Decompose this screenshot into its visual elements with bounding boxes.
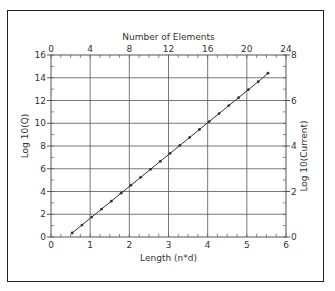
data-point [90, 216, 93, 219]
x-tick-label: 1 [87, 240, 93, 250]
y-tick-label: 12 [35, 96, 46, 106]
y2-tick-label: 2 [291, 187, 297, 197]
data-point [130, 184, 133, 187]
top-axis-title: Number of Elements [122, 32, 215, 42]
data-point [71, 232, 74, 235]
data-point [227, 104, 230, 107]
x-tick-label: 4 [205, 240, 211, 250]
data-point [81, 224, 84, 227]
data-point [100, 208, 103, 211]
data-point [169, 152, 172, 155]
y-tick-label: 2 [40, 209, 46, 219]
y-tick-label: 6 [40, 164, 46, 174]
y-tick-label: 14 [35, 73, 47, 83]
x2-tick-label: 12 [163, 44, 174, 54]
data-series [71, 72, 270, 235]
chart: 012345604812162024024681012141602468 Num… [0, 0, 335, 291]
y-tick-label: 0 [40, 232, 46, 242]
x-tick-label: 6 [283, 240, 289, 250]
data-point [110, 200, 113, 203]
y-tick-label: 4 [40, 187, 46, 197]
y-tick-label: 8 [40, 141, 46, 151]
data-point [188, 136, 191, 139]
left-axis-title: Log 10(Q) [20, 114, 30, 159]
y2-tick-label: 0 [291, 232, 297, 242]
x2-tick-label: 16 [202, 44, 214, 54]
data-point [139, 176, 142, 179]
x-tick-label: 0 [48, 240, 54, 250]
grid [51, 55, 286, 237]
y2-tick-label: 4 [291, 141, 297, 151]
y2-tick-label: 8 [291, 50, 297, 60]
x2-tick-label: 4 [87, 44, 93, 54]
data-point [218, 112, 221, 115]
data-point [178, 144, 181, 147]
bottom-axis-title: Length (n*d) [140, 253, 197, 263]
data-point [267, 72, 270, 75]
data-point [149, 168, 152, 171]
x-tick-label: 3 [166, 240, 172, 250]
data-point [257, 80, 260, 83]
data-point [159, 160, 162, 163]
y-tick-label: 10 [35, 118, 47, 128]
x2-tick-label: 20 [241, 44, 253, 54]
tick-labels: 012345604812162024024681012141602468 [35, 44, 297, 250]
data-point [237, 96, 240, 99]
right-axis-title: Log 10(Current) [299, 120, 309, 191]
data-point [247, 88, 250, 91]
data-point [208, 120, 211, 123]
x2-tick-label: 8 [126, 44, 132, 54]
y-tick-label: 16 [35, 50, 47, 60]
x-tick-label: 2 [126, 240, 132, 250]
x2-tick-label: 0 [48, 44, 54, 54]
y2-tick-label: 6 [291, 96, 297, 106]
data-point [120, 192, 123, 195]
x-tick-label: 5 [244, 240, 250, 250]
data-point [198, 128, 201, 131]
